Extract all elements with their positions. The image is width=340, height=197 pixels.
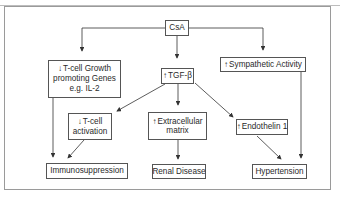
node-line: ↓T-cell Growth: [58, 64, 111, 74]
node-label: Endothelin 1: [242, 122, 288, 132]
node-label: Immunosuppression: [50, 166, 124, 176]
node-label: activation: [73, 127, 108, 137]
node-csa: CsA: [165, 20, 189, 36]
node-sympathetic: ↑Sympathetic Activity: [220, 57, 306, 72]
node-immunosuppression: Immunosuppression: [46, 163, 128, 179]
up-arrow-icon: ↑: [224, 60, 228, 70]
node-label: promoting Genes: [53, 74, 116, 84]
edge-endothelin-hypertension: [257, 136, 281, 159]
up-arrow-icon: ↑: [237, 122, 241, 132]
node-label: e.g. IL-2: [69, 84, 99, 94]
node-label: T-cell: [83, 117, 103, 126]
node-label: CsA: [169, 23, 184, 33]
node-label: T-cell Growth: [63, 64, 111, 73]
node-extracellular-matrix: ↑Extracellular matrix: [148, 112, 207, 140]
edge-csa-sympathetic: [189, 28, 263, 50]
down-arrow-icon: ↓: [78, 117, 82, 126]
node-endothelin: ↑Endothelin 1: [236, 119, 288, 135]
node-line: ↑Extracellular: [152, 117, 202, 127]
node-tgf-beta: ↑TGF-β: [161, 68, 194, 84]
node-line: ↓T-cell: [78, 117, 103, 127]
node-label: Sympathetic Activity: [229, 60, 302, 70]
node-label: Hypertension: [255, 167, 303, 177]
node-tcell-growth: ↓T-cell Growth promoting Genes e.g. IL-2: [48, 60, 121, 98]
up-arrow-icon: ↑: [152, 117, 156, 126]
edge-tcellact-immuno: [68, 140, 84, 158]
node-label: Renal Disease: [152, 167, 205, 177]
node-renal-disease: Renal Disease: [152, 164, 206, 179]
edge-tgf-tcellact: [117, 84, 165, 111]
edge-csa-tcellgrowth: [82, 28, 165, 51]
node-tcell-activation: ↓T-cell activation: [68, 113, 112, 140]
node-label: TGF-β: [168, 71, 192, 81]
down-arrow-icon: ↓: [58, 64, 62, 73]
node-label: Extracellular: [157, 117, 202, 126]
node-label: matrix: [166, 126, 188, 136]
node-hypertension: Hypertension: [252, 164, 307, 179]
up-arrow-icon: ↑: [163, 71, 167, 81]
